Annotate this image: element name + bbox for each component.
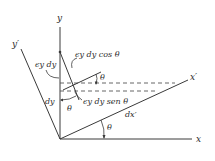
label-theta-mid: θ [67, 104, 72, 113]
label-dy: dy [45, 97, 55, 106]
label-eps-dy: ϵy dy [35, 60, 57, 69]
label-theta-bottom: θ [107, 123, 112, 132]
label-x: x [196, 134, 201, 144]
leader-dy-theta [61, 96, 76, 100]
label-y-prime: y′ [11, 39, 19, 49]
label-x-prime: x′ [190, 72, 197, 82]
label-y: y [56, 13, 63, 23]
leader-eps-dy-cos [72, 58, 77, 68]
label-eps-dy-sen: ϵy dy sen θ [83, 97, 128, 106]
label-theta-top: θ [100, 73, 105, 82]
x-prime-axis [60, 80, 188, 139]
label-dx-prime: dx′ [125, 110, 137, 119]
leader-eps-dy [46, 70, 59, 78]
label-eps-dy-cos: ϵy dy cos θ [75, 50, 120, 59]
deformation-line [60, 52, 79, 100]
strain-diagram: y y′ x x′ ϵy dy ϵy dy cos θ ϵy dy sen θ … [0, 0, 215, 161]
